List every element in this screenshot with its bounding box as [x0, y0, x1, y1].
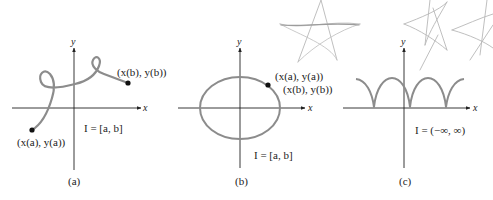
interval-label-a: I = [a, b]: [84, 123, 123, 134]
figure-canvas: [0, 0, 493, 200]
interval-label-c: I = (−∞, ∞): [415, 125, 465, 136]
panel-c: [343, 48, 470, 168]
start-point-a: [29, 127, 34, 132]
start-point-label-b: (x(a), y(a)): [275, 71, 323, 82]
x-axis-label-c: x: [473, 103, 477, 113]
end-point-a: [125, 80, 130, 85]
parametric-curves-figure: y x (x(b), y(b)) (x(a), y(a)) I = [a, b]…: [0, 0, 493, 200]
star-scribble-2-icon: [404, 0, 447, 70]
x-axis-label-b: x: [308, 103, 312, 113]
end-point-label-a: (x(b), y(b)): [117, 67, 166, 78]
end-point-label-b: (x(b), y(b)): [283, 84, 332, 95]
star-scribble-3-icon: [452, 0, 493, 60]
y-axis-label-b: y: [237, 37, 241, 47]
y-axis-label-c: y: [401, 37, 405, 47]
start-point-label-a: (x(a), y(a)): [17, 137, 65, 148]
interval-label-b: I = [a, b]: [254, 150, 293, 161]
cycloid-curve-c: [356, 78, 464, 107]
x-axis-label-a: x: [143, 103, 147, 113]
caption-c: (c): [399, 176, 411, 187]
start-end-point-b: [265, 82, 270, 87]
star-scribbles: [280, 0, 493, 70]
caption-b: (b): [235, 176, 248, 187]
curve-a: [32, 57, 128, 130]
star-scribble-1-icon: [280, 0, 360, 62]
caption-a: (a): [68, 176, 80, 187]
y-axis-label-a: y: [71, 37, 75, 47]
